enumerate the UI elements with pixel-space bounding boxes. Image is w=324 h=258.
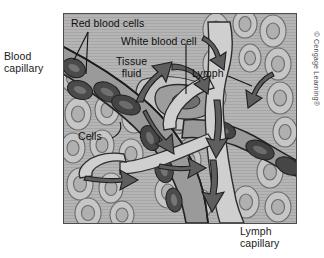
- label-white-blood-cell: White blood cell: [121, 36, 197, 48]
- illustration-frame: Red blood cells White blood cell Tissue …: [63, 13, 297, 224]
- label-blood-capillary: Blood capillary: [4, 51, 43, 75]
- label-lymph-capillary: Lymph capillary: [240, 226, 279, 250]
- label-tissue-fluid: Tissue fluid: [116, 56, 147, 79]
- label-cells: Cells: [78, 131, 102, 143]
- copyright-credit: © Cengage Learning®: [312, 31, 321, 106]
- label-red-blood-cells: Red blood cells: [71, 18, 144, 30]
- figure-container: Blood capillary Lymph capillary: [0, 0, 324, 258]
- label-lymph: Lymph: [192, 68, 224, 80]
